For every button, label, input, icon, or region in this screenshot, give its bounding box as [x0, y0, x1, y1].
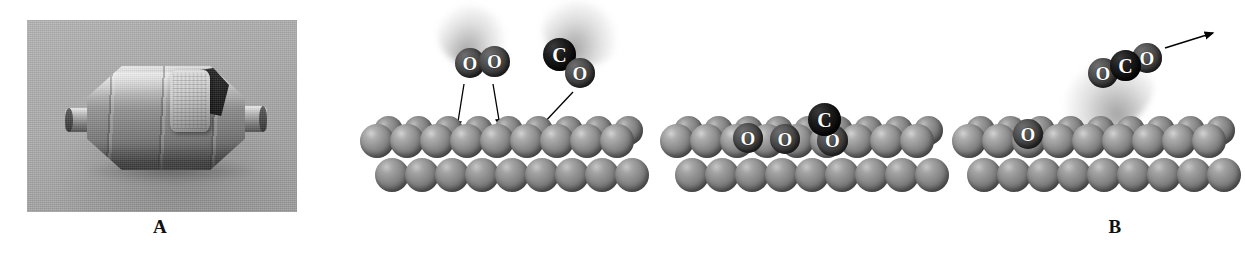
catalyst-metal-atom: [510, 124, 544, 158]
catalyst-metal-atom: [1207, 158, 1241, 192]
catalyst-metal-atom: [900, 124, 934, 158]
catalyst-metal-atom: [1102, 124, 1136, 158]
catalyst-metal-atom: [465, 158, 499, 192]
catalyst-metal-atom: [1162, 124, 1196, 158]
co2-carbon-atom: C: [1110, 50, 1141, 81]
atom-label-o: O: [778, 130, 793, 149]
catalyst-metal-atom: [555, 158, 589, 192]
catalyst-metal-atom: [855, 158, 889, 192]
catalyst-metal-atom: [1117, 158, 1151, 192]
catalyst-metal-atom: [540, 124, 574, 158]
catalyst-metal-atom: [1027, 158, 1061, 192]
catalyst-metal-atom: [615, 158, 649, 192]
catalyst-metal-atom: [967, 158, 1001, 192]
photo-grain-texture: [27, 20, 297, 212]
catalyst-metal-atom: [405, 158, 439, 192]
mechanism-step-2-dissociation: O O C O: [645, 0, 940, 257]
catalyst-metal-atom: [435, 158, 469, 192]
panel-b: O O C O: [320, 0, 1235, 257]
catalyst-metal-atom: [450, 124, 484, 158]
panel-a-label: A: [0, 216, 320, 238]
arrow-co2-escape: [1165, 33, 1213, 48]
catalyst-metal-atom: [1072, 124, 1106, 158]
catalyst-metal-atom: [375, 158, 409, 192]
catalyst-metal-atom: [495, 158, 529, 192]
catalyst-metal-atom: [705, 158, 739, 192]
atom-label-o: O: [1140, 49, 1155, 68]
catalyst-metal-atom: [870, 124, 904, 158]
panel-b-label: B: [960, 216, 1245, 238]
mechanism-step-1-adsorption: O O C O: [345, 0, 645, 257]
catalyst-metal-atom: [997, 158, 1031, 192]
catalyst-metal-atom: [825, 158, 859, 192]
adsorbed-oxygen-atom-1: O: [733, 123, 763, 153]
catalyst-metal-atom: [675, 158, 709, 192]
catalyst-metal-atom: [420, 124, 454, 158]
catalyst-metal-atom: [1057, 158, 1091, 192]
atom-label-o: O: [1096, 64, 1111, 83]
atom-label-o: O: [741, 129, 756, 148]
catalyst-metal-atom: [570, 124, 604, 158]
adsorbed-oxygen-atom-2: O: [770, 124, 800, 154]
catalyst-metal-atom: [480, 124, 514, 158]
catalyst-metal-atom: [390, 124, 424, 158]
catalyst-metal-atom: [1042, 124, 1076, 158]
catalyst-metal-atom: [660, 124, 694, 158]
catalyst-metal-atom: [1177, 158, 1211, 192]
atom-label-o: O: [1021, 125, 1036, 144]
panel-a: A: [0, 0, 320, 257]
catalyst-metal-atom: [982, 124, 1016, 158]
catalyst-metal-atom: [952, 124, 986, 158]
atom-label-c: C: [817, 110, 831, 130]
catalyst-metal-atom: [765, 158, 799, 192]
catalyst-metal-atom: [690, 124, 724, 158]
catalyst-metal-atom: [1147, 158, 1181, 192]
atom-label-c: C: [1118, 56, 1132, 76]
catalyst-metal-atom: [1087, 158, 1121, 192]
catalyst-metal-atom: [585, 158, 619, 192]
catalyst-metal-atom: [1132, 124, 1166, 158]
catalyst-metal-atom: [915, 158, 949, 192]
remaining-adsorbed-oxygen-atom: O: [1013, 119, 1043, 149]
catalyst-metal-atom: [600, 124, 634, 158]
catalyst-metal-atom: [795, 158, 829, 192]
catalyst-metal-atom: [1192, 124, 1226, 158]
adsorbed-co-carbon-atom: C: [808, 103, 841, 136]
catalytic-converter-photograph: [27, 20, 297, 212]
catalyst-metal-atom: [525, 158, 559, 192]
catalyst-metal-atom: [735, 158, 769, 192]
catalyst-metal-atom: [360, 124, 394, 158]
catalyst-metal-atom: [885, 158, 919, 192]
